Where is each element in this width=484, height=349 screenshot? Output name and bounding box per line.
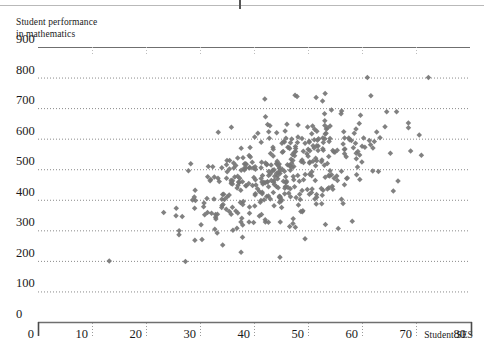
data-point [249,160,255,166]
data-point [355,164,361,170]
y-tick-label: 900 [16,33,35,46]
data-point [224,162,230,168]
data-point [426,75,432,81]
data-point [240,235,246,241]
data-point [267,135,273,141]
data-point [220,242,226,248]
plot-canvas [0,0,484,349]
data-point [266,184,272,190]
data-point [192,237,198,243]
data-point [259,159,265,165]
data-point [238,146,244,152]
data-point [356,121,362,127]
data-point [350,218,356,224]
data-point [408,148,414,154]
x-tick-label: 10 [50,328,88,341]
data-point [246,219,252,225]
data-point [406,125,412,131]
data-point [295,173,301,179]
data-point [372,139,378,145]
data-point [235,155,241,161]
data-point [351,145,357,151]
data-point [215,129,221,135]
x-tick-label: 0 [0,328,34,341]
data-point [368,93,374,99]
x-tick-label: 80 [428,328,466,341]
data-point [341,129,347,135]
data-point [305,187,311,193]
data-point [335,226,341,232]
data-point [247,145,253,151]
data-point [247,210,253,216]
data-point [282,128,288,134]
y-tick-label: 100 [16,277,35,290]
y-tick-label: 0 [16,308,22,321]
data-point [342,135,348,141]
data-point [342,182,348,188]
data-point [394,109,400,115]
data-point [230,205,236,211]
data-point [313,201,319,207]
data-point [302,236,308,242]
y-tick-label: 600 [16,125,35,138]
data-point [211,196,217,202]
data-point [277,254,283,260]
data-point [322,111,328,117]
data-point [340,141,346,147]
data-point [186,168,192,174]
data-point [258,139,264,145]
data-point [255,131,261,137]
x-tick-label: 40 [212,328,250,341]
data-point [419,152,425,158]
data-point [279,205,285,211]
x-tick-label: 20 [104,328,142,341]
y-tick-label: 200 [16,247,35,260]
data-point [188,161,194,167]
data-point [247,204,253,210]
data-point [326,154,332,160]
data-point [319,193,325,199]
data-point [268,162,274,168]
data-point [266,129,272,135]
data-point [219,165,225,171]
data-point [291,177,297,183]
data-point [353,140,359,146]
data-point [204,196,210,202]
data-point [206,164,212,170]
data-point [354,172,360,178]
data-point [224,176,230,182]
x-tick-label: 70 [374,328,412,341]
data-point [339,169,345,175]
data-point [271,190,277,196]
data-point [319,201,325,207]
data-point [354,156,360,162]
data-point [329,107,335,113]
data-point [209,211,215,217]
data-point [290,216,296,222]
data-point [198,222,204,228]
data-point [274,130,280,136]
scatter-plot-figure: Student performance in mathematics Stude… [0,0,484,349]
data-point [161,210,167,216]
data-point [313,178,319,184]
data-point [252,134,257,140]
x-tick-marks [93,47,417,336]
data-point [238,250,244,256]
x-tick-label: 30 [158,328,196,341]
data-point [384,109,390,115]
data-point [179,214,185,220]
data-point [251,220,256,226]
data-point [313,95,319,101]
data-point [416,132,422,138]
data-point [263,114,269,120]
y-tick-label: 400 [16,186,35,199]
data-point [322,91,328,97]
data-point [252,203,258,209]
data-point [361,135,367,141]
data-point [305,124,311,130]
data-point [359,159,365,165]
data-point [229,125,235,131]
data-point [173,206,179,212]
data-point [173,213,179,219]
data-point [370,168,376,174]
